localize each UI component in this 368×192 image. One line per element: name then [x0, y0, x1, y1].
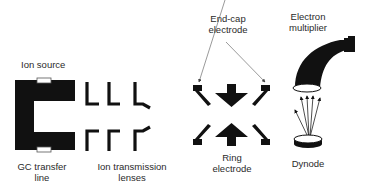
label-end-cap-2: electrode [206, 24, 250, 35]
ion-source-block [15, 78, 75, 152]
label-electron-multiplier: Electron multiplier [283, 11, 333, 33]
gc-transfer-port [37, 147, 51, 152]
label-dynode: Dynode [288, 158, 328, 169]
label-gc-transfer-line: GC transfer line [14, 161, 70, 183]
label-multiplier-2: multiplier [283, 22, 333, 33]
label-ring-1: Ring [210, 152, 254, 163]
label-ion-lenses-1: Ion transmission [92, 161, 172, 172]
label-gc-transfer-line-2: line [14, 172, 70, 183]
label-end-cap-1: End-cap [206, 13, 250, 24]
ring-electrodes [215, 84, 248, 146]
multiplier-opening [293, 84, 321, 92]
label-end-cap-electrode: End-cap electrode [206, 13, 250, 35]
ion-transmission-lenses [87, 82, 150, 151]
label-ion-transmission-lenses: Ion transmission lenses [92, 161, 172, 183]
ion-source-port [37, 78, 51, 83]
label-gc-transfer-line-1: GC transfer [14, 161, 70, 172]
label-ring-2: electrode [210, 163, 254, 174]
label-ion-source: Ion source [21, 59, 65, 70]
label-ion-lenses-2: lenses [92, 172, 172, 183]
label-ring-electrode: Ring electrode [210, 152, 254, 174]
electron-multiplier [293, 36, 355, 92]
electron-paths [295, 96, 320, 137]
label-multiplier-1: Electron [283, 11, 333, 22]
dynode [294, 135, 322, 148]
